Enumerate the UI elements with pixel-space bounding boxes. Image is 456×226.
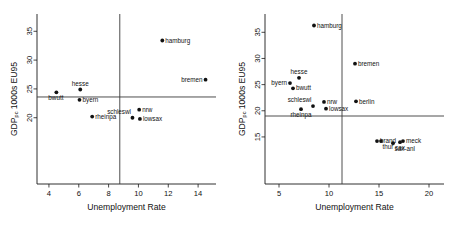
data-point: bwutt xyxy=(291,84,311,91)
data-point: bremen xyxy=(181,76,207,83)
point-label: bwutt xyxy=(296,84,311,91)
x-tick-label: 10 xyxy=(325,189,333,198)
point-marker xyxy=(354,99,358,103)
point-marker xyxy=(204,78,208,82)
point-marker xyxy=(90,115,94,119)
x-tick-label: 15 xyxy=(375,189,383,198)
point-label: bremen xyxy=(181,76,203,83)
data-point: hesse xyxy=(72,80,89,92)
data-point: hamburg xyxy=(312,22,342,30)
x-tick-label: 8 xyxy=(106,189,110,198)
y-axis-title-tail: 1000s EU95 xyxy=(9,62,19,112)
data-point: hesse xyxy=(291,68,308,80)
y-axis-title-group: GDPpc 1000s EU95 xyxy=(237,62,247,136)
x-axis-title: Unemployment Rate xyxy=(315,202,394,212)
x-tick-label: 4 xyxy=(47,189,51,198)
data-point: lowsax xyxy=(138,115,163,122)
data-point: berlin xyxy=(354,98,375,105)
point-marker xyxy=(137,108,141,112)
point-marker xyxy=(291,86,295,90)
point-marker xyxy=(138,117,142,121)
x-tick-label: 5 xyxy=(277,189,281,198)
point-marker xyxy=(160,39,164,43)
y-tick-label: 20 xyxy=(254,107,263,115)
point-label: nrw xyxy=(142,106,153,113)
plot-area-left: 46810121420253035bwuttbyernhesserheinpas… xyxy=(0,0,228,226)
data-point: byern xyxy=(271,79,292,87)
x-tick-label: 10 xyxy=(134,189,142,198)
data-point: rheinpa xyxy=(290,107,312,119)
x-tick-label: 6 xyxy=(77,189,81,198)
y-tick-label: 15 xyxy=(254,133,263,141)
y-tick-label: 30 xyxy=(26,56,35,64)
point-label: hesse xyxy=(291,68,308,75)
point-label: bremen xyxy=(358,60,380,67)
y-axis-title-tail: 1000s EU95 xyxy=(237,62,247,112)
point-label: hesse xyxy=(72,80,89,87)
y-axis-title: GDPpc 1000s EU95 xyxy=(237,62,247,136)
data-point: schleswl xyxy=(288,96,315,108)
point-label: schleswl xyxy=(288,96,312,103)
x-tick-label: 20 xyxy=(425,189,433,198)
data-point: bremen xyxy=(353,60,380,67)
point-label: lowsax xyxy=(143,115,163,122)
scatter-figure: 46810121420253035bwuttbyernhesserheinpas… xyxy=(0,0,456,226)
point-label: sax xyxy=(395,144,406,151)
y-tick-label: 20 xyxy=(26,114,35,122)
point-label: byern xyxy=(83,96,99,104)
point-marker xyxy=(353,62,357,66)
point-label: rheinpa xyxy=(290,111,312,119)
x-axis-title: Unemployment Rate xyxy=(87,202,166,212)
y-tick-label: 25 xyxy=(26,85,35,93)
point-marker xyxy=(78,88,82,92)
point-label: hamburg xyxy=(317,22,342,30)
point-label: byern xyxy=(271,79,287,87)
y-axis-title-main: GDP xyxy=(237,117,247,136)
y-axis-title-group: GDPpc 1000s EU95 xyxy=(9,62,19,136)
point-marker xyxy=(401,139,405,143)
data-point: hamburg xyxy=(160,37,190,45)
y-axis-title: GDPpc 1000s EU95 xyxy=(9,62,19,136)
point-marker xyxy=(131,116,135,120)
y-axis-title-main: GDP xyxy=(9,117,19,136)
x-tick-label: 14 xyxy=(194,189,202,198)
y-tick-label: 25 xyxy=(254,80,263,88)
data-point: lowsax xyxy=(324,105,349,112)
data-point: bwutt xyxy=(48,90,63,101)
panel-right: 51015201520253035byernbwutthesserheinpas… xyxy=(228,0,456,226)
x-tick-label: 12 xyxy=(164,189,172,198)
point-label: hamburg xyxy=(165,37,190,45)
point-marker xyxy=(322,100,326,104)
y-tick-label: 35 xyxy=(254,28,263,36)
y-tick-label: 30 xyxy=(254,54,263,62)
point-label: schleswl xyxy=(107,108,131,115)
plot-area-right: 51015201520253035byernbwutthesserheinpas… xyxy=(228,0,456,226)
point-marker xyxy=(78,98,82,102)
point-label: bwutt xyxy=(48,94,63,101)
y-tick-label: 35 xyxy=(26,27,35,35)
point-marker xyxy=(311,104,315,108)
point-marker xyxy=(324,107,328,111)
point-marker xyxy=(312,24,316,28)
point-marker xyxy=(288,81,292,85)
point-marker xyxy=(375,139,379,143)
point-label: berlin xyxy=(359,98,375,105)
point-marker xyxy=(297,76,301,80)
panel-left: 46810121420253035bwuttbyernhesserheinpas… xyxy=(0,0,228,226)
point-label: meck xyxy=(406,137,422,144)
data-point: nrw xyxy=(137,106,152,113)
point-label: lowsax xyxy=(329,105,349,112)
